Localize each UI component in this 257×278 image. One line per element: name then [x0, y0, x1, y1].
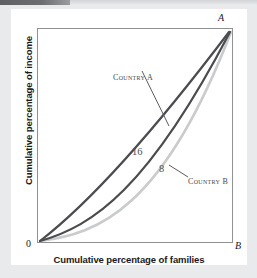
- figure-card: Cumulative percentage of income Cumulati…: [11, 9, 247, 265]
- corner-label-b: B: [235, 240, 241, 251]
- annotation-country-b: Country B: [188, 177, 228, 186]
- annotation-country-a: Country A: [113, 73, 153, 82]
- curve-country-b: [40, 32, 231, 241]
- top-edge-strip: [70, 0, 257, 5]
- corner-label-a: A: [218, 12, 224, 23]
- lorenz-curves: [38, 29, 234, 244]
- y-axis-title: Cumulative percentage of income: [23, 11, 34, 211]
- x-axis-title: Cumulative percentage of families: [11, 254, 247, 265]
- curve-country-a: [40, 32, 229, 241]
- annotation-value-16: 16: [132, 146, 143, 157]
- origin-label: 0: [26, 238, 31, 249]
- curve-middle: [40, 32, 230, 241]
- annotation-value-8: 8: [159, 163, 164, 174]
- plot-area: Country A Country B 16 8: [37, 28, 233, 243]
- leader-line-country-b: [169, 165, 188, 177]
- top-edge-dark-bar: [0, 0, 70, 5]
